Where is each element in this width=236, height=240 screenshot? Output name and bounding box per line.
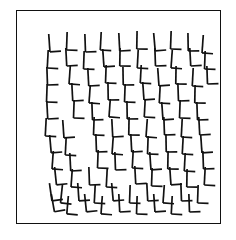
l-shape-horizontal-arm (204, 185, 215, 186)
l-shape-vertical-arm (70, 153, 71, 171)
l-shape-horizontal-arm (71, 187, 82, 188)
l-shape-horizontal-arm (120, 50, 131, 51)
l-shape-horizontal-arm (52, 169, 63, 170)
l-shape-horizontal-arm (132, 168, 143, 169)
l-shape-glyph (178, 83, 190, 101)
l-shape-horizontal-arm (192, 86, 203, 87)
l-shape-horizontal-arm (101, 214, 112, 215)
l-shape-vertical-arm (78, 183, 79, 201)
l-shape-horizontal-arm (86, 211, 97, 212)
l-shape-horizontal-arm (200, 134, 211, 135)
l-shape-glyph (88, 67, 100, 86)
l-shape-vertical-arm (144, 99, 145, 117)
l-shape-glyph (198, 185, 210, 203)
l-shape-vertical-arm (190, 48, 191, 66)
l-shape-vertical-arm (132, 150, 133, 168)
l-shape-horizontal-arm (182, 154, 193, 155)
l-shape-horizontal-arm (50, 51, 61, 52)
l-shape-vertical-arm (89, 167, 90, 185)
l-shape-vertical-arm (135, 166, 136, 184)
l-shape-glyph (112, 118, 124, 137)
l-shape-glyph (112, 136, 124, 155)
l-shape-glyph (152, 168, 164, 186)
l-shape-vertical-arm (92, 102, 93, 120)
l-shape-vertical-arm (154, 194, 155, 212)
l-shape-vertical-arm (130, 185, 131, 203)
l-shape-glyph (159, 85, 171, 104)
l-shape-vertical-arm (72, 83, 73, 101)
l-shape-glyph (171, 31, 183, 49)
l-shape-horizontal-arm (159, 103, 170, 104)
l-shape-vertical-arm (192, 68, 193, 86)
l-shape-glyph (192, 68, 204, 87)
l-shape-glyph (47, 67, 59, 85)
l-shape-glyph (144, 99, 156, 118)
l-shape-glyph (181, 119, 193, 138)
l-shape-vertical-arm (84, 51, 85, 69)
l-shape-vertical-arm (152, 168, 153, 186)
l-shape-glyph (96, 134, 108, 152)
l-shape-glyph (94, 185, 106, 204)
l-shape-vertical-arm (181, 119, 182, 137)
l-shape-glyph (131, 133, 143, 152)
l-shape-vertical-arm (184, 153, 185, 171)
l-shape-vertical-arm (85, 34, 86, 52)
l-shape-vertical-arm (65, 137, 66, 155)
l-shape-glyph (47, 100, 59, 119)
l-shape-vertical-arm (100, 32, 101, 50)
l-shape-glyph (168, 151, 179, 169)
l-shape-vertical-arm (158, 68, 159, 86)
l-shape-glyph (184, 153, 196, 172)
l-shape-vertical-arm (88, 68, 89, 86)
l-shape-vertical-arm (112, 119, 113, 137)
l-shape-horizontal-arm (137, 68, 148, 69)
l-shape-vertical-arm (119, 194, 120, 212)
l-shape-glyph (49, 33, 61, 52)
l-shape-horizontal-arm (155, 211, 166, 212)
l-shape-vertical-arm (147, 183, 148, 201)
l-shape-glyph (127, 101, 138, 119)
l-shape-glyph (112, 182, 125, 201)
l-shape-vertical-arm (201, 135, 202, 153)
l-shape-vertical-arm (94, 117, 95, 135)
l-shape-vertical-arm (106, 169, 107, 187)
l-shape-vertical-arm (198, 185, 199, 203)
l-shape-vertical-arm (137, 50, 138, 68)
l-shape-horizontal-arm (140, 83, 151, 84)
l-shape-vertical-arm (66, 48, 67, 66)
l-shape-vertical-arm (146, 119, 147, 137)
l-shape-vertical-arm (148, 136, 149, 154)
l-shape-glyph (51, 192, 65, 212)
l-shape-horizontal-arm (155, 50, 166, 51)
l-shape-vertical-arm (47, 67, 48, 85)
l-shape-glyph (47, 50, 59, 69)
l-shape-vertical-arm (47, 84, 48, 102)
l-shape-horizontal-arm (144, 117, 155, 118)
l-shape-glyph (61, 185, 74, 204)
l-shape-vertical-arm (69, 66, 70, 84)
l-shape-glyph (146, 119, 158, 138)
l-shape-horizontal-arm (148, 200, 159, 201)
l-shape-glyph (180, 100, 192, 118)
l-shape-glyph (182, 136, 194, 155)
l-shape-vertical-arm (197, 102, 198, 120)
l-shape-vertical-arm (96, 134, 97, 152)
l-shape-glyph (202, 35, 214, 54)
l-shape-glyph (125, 84, 137, 102)
l-shape-vertical-arm (203, 151, 204, 169)
l-shape-vertical-arm (50, 135, 52, 153)
l-shape-glyph (89, 167, 101, 185)
l-shape-horizontal-arm (112, 154, 123, 155)
l-shape-glyph (98, 150, 110, 168)
l-shape-vertical-arm (125, 84, 126, 102)
l-shape-horizontal-arm (120, 211, 131, 212)
l-shape-glyph (67, 196, 80, 215)
l-shape-horizontal-arm (100, 50, 111, 51)
l-shape-vertical-arm (140, 65, 141, 83)
l-shape-vertical-arm (178, 83, 179, 101)
glyph-layer (45, 31, 218, 215)
l-shape-vertical-arm (112, 136, 113, 154)
l-shape-vertical-arm (171, 196, 172, 214)
l-shape-glyph (171, 50, 183, 69)
l-shape-horizontal-arm (48, 118, 59, 119)
